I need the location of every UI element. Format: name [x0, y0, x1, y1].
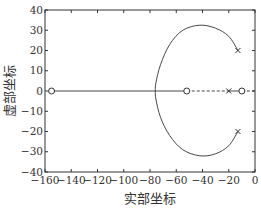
pole-marker — [235, 129, 240, 134]
x-axis-ticks: −160−140−120−100−80−60−40−200 — [31, 10, 259, 186]
x-tick-label: −20 — [218, 174, 240, 186]
x-tick-label: −60 — [165, 174, 187, 186]
x-tick-label: −140 — [57, 174, 86, 186]
locus-upper-branch — [155, 25, 238, 91]
zero-marker — [49, 88, 55, 94]
y-tick-label: −30 — [21, 145, 43, 157]
y-tick-label: 20 — [30, 44, 43, 56]
x-tick-label: 0 — [252, 174, 259, 186]
zero-marker — [239, 88, 245, 94]
y-tick-label: −10 — [21, 105, 43, 117]
locus-series — [52, 25, 255, 156]
y-tick-label: −40 — [21, 166, 43, 178]
x-tick-label: −100 — [109, 174, 138, 186]
pole-marker — [235, 48, 240, 53]
y-tick-label: −20 — [21, 125, 43, 137]
y-tick-label: 30 — [30, 24, 43, 36]
x-tick-label: −80 — [139, 174, 161, 186]
y-tick-label: 40 — [30, 4, 43, 16]
x-tick-label: −40 — [191, 174, 213, 186]
y-axis-title: 虚部坐标 — [2, 65, 17, 117]
y-tick-label: 10 — [30, 64, 43, 76]
locus-lower-branch — [155, 91, 238, 156]
root-locus-chart: −160−140−120−100−80−60−40−200 403020100−… — [0, 0, 261, 208]
y-tick-label: 0 — [36, 85, 43, 97]
zero-marker — [184, 88, 190, 94]
x-axis-title: 实部坐标 — [124, 191, 176, 206]
x-tick-label: −120 — [83, 174, 112, 186]
